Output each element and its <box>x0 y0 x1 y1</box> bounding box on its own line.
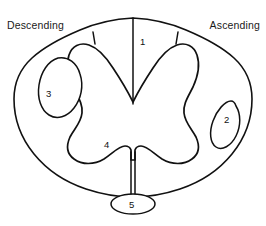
region-label-5: 5 <box>129 199 134 210</box>
spinal-cord-diagram: Descending Ascending 1 2 3 4 5 <box>0 0 266 226</box>
label-descending: Descending <box>7 19 64 31</box>
label-ascending: Ascending <box>210 19 260 31</box>
region-label-3: 3 <box>46 88 51 99</box>
region-label-4: 4 <box>104 139 109 150</box>
region-label-1: 1 <box>140 36 145 47</box>
region-label-2: 2 <box>224 114 229 125</box>
spinal-cord-illustration <box>0 0 266 226</box>
